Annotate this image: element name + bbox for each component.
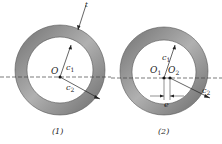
- label-e: e: [164, 100, 169, 109]
- figure-1-concentric-ring: O c1 c2 t (1): [0, 1, 111, 136]
- caption-2: (2): [158, 127, 169, 136]
- caption-1: (1): [52, 127, 63, 136]
- label-c1: c1: [66, 63, 74, 73]
- label-o2: O2: [168, 65, 179, 76]
- label-c1-2: c1: [162, 53, 170, 63]
- tube-cross-section-diagram: O c1 c2 t (1) O1 O2 c1 c2 e (2): [0, 0, 222, 144]
- figure-2-eccentric-ring: O1 O2 c1 c2 e (2): [111, 27, 222, 136]
- center-label-o: O: [51, 66, 59, 76]
- label-o1: O1: [150, 65, 161, 76]
- label-t: t: [85, 1, 88, 9]
- label-c2-2: c2: [202, 86, 210, 96]
